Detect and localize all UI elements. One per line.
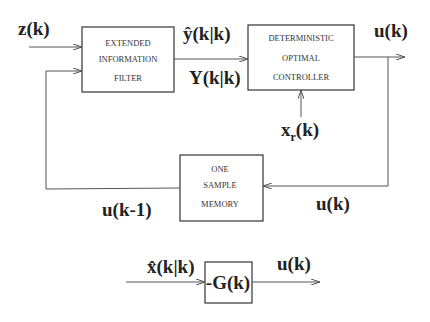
memory-line-1: ONE (211, 164, 228, 174)
gain-block: -G(k) (205, 262, 252, 303)
block-diagram: EXTENDED INFORMATION FILTER DETERMINISTI… (0, 0, 430, 322)
controller-line-1: DETERMINISTIC (268, 33, 333, 43)
filter-line-3: FILTER (114, 73, 142, 83)
label-x-hat: x̂(k|k) (147, 256, 194, 278)
deterministic-optimal-controller-block: DETERMINISTIC OPTIMAL CONTROLLER (248, 25, 354, 90)
label-x-r-k: xr(k) (281, 119, 319, 144)
delayed-control-arrow (46, 71, 180, 189)
label-u-k-out: u(k) (374, 20, 408, 42)
controller-line-2: OPTIMAL (282, 53, 320, 63)
gain-label: -G(k) (206, 272, 250, 294)
controller-line-3: CONTROLLER (273, 72, 330, 82)
one-sample-memory-block: ONE SAMPLE MEMORY (180, 155, 263, 221)
filter-line-1: EXTENDED (105, 38, 150, 48)
label-u-k-memory: u(k) (316, 193, 350, 215)
memory-line-2: SAMPLE (203, 180, 237, 190)
memory-line-3: MEMORY (201, 199, 239, 209)
label-Y-kk: Y(k|k) (189, 67, 241, 89)
filter-line-2: INFORMATION (99, 54, 158, 64)
label-u-k-minus-1: u(k-1) (102, 199, 152, 221)
label-z-k: z(k) (18, 18, 50, 40)
label-y-hat: ŷ(k|k) (183, 23, 230, 45)
label-u-k-gain: u(k) (277, 253, 311, 275)
extended-information-filter-block: EXTENDED INFORMATION FILTER (82, 27, 174, 92)
